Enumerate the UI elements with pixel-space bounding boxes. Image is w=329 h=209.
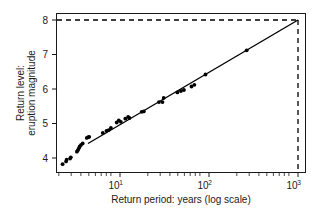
- y-tick-label-6: 6: [42, 84, 48, 95]
- y-axis-title-line1: Return level:: [15, 65, 26, 121]
- data-point: [65, 158, 69, 162]
- data-point: [119, 120, 123, 124]
- data-point: [127, 116, 131, 120]
- x-tick-label-1000-group: 10 3: [286, 179, 301, 192]
- y-tick-label-7: 7: [42, 49, 48, 60]
- x-axis-minor-ticks: [59, 173, 298, 178]
- data-point: [81, 142, 85, 146]
- x-tick-label-10-exponent: 1: [119, 179, 123, 186]
- x-tick-label-100-group: 10 2: [197, 179, 212, 192]
- data-point: [182, 88, 186, 92]
- data-point: [69, 155, 73, 159]
- y-tick-label-8: 8: [42, 15, 48, 26]
- y-tick-label-5: 5: [42, 118, 48, 129]
- data-point: [142, 110, 146, 114]
- x-tick-label-10-group: 10 1: [108, 179, 123, 192]
- data-point: [157, 100, 161, 104]
- data-point: [245, 48, 249, 52]
- data-point: [101, 131, 105, 135]
- return-level-plot: 8 7 6 5 4: [0, 0, 329, 209]
- data-point: [176, 91, 180, 95]
- data-point: [87, 135, 91, 139]
- fitted-return-level-line: [88, 20, 298, 144]
- data-point: [204, 73, 208, 77]
- data-point: [193, 83, 197, 87]
- y-tick-label-4: 4: [42, 153, 48, 164]
- y-axis-title-line2: eruption magnitude: [26, 50, 37, 136]
- x-tick-label-100-exponent: 2: [208, 179, 212, 186]
- data-point: [109, 126, 113, 130]
- data-point: [61, 162, 65, 166]
- x-tick-label-1000-exponent: 3: [297, 179, 301, 186]
- y-axis-ticks: [52, 20, 57, 158]
- chart-page: 8 7 6 5 4: [0, 0, 329, 209]
- x-axis-title: Return period: years (log scale): [111, 194, 251, 205]
- data-point: [161, 100, 165, 104]
- data-point: [162, 96, 166, 100]
